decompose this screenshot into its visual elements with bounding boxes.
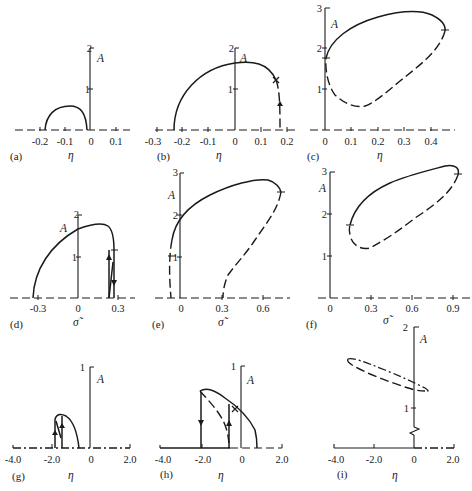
unstable-branch	[349, 175, 458, 248]
ytick: 1	[220, 361, 236, 372]
ytick: 1	[306, 84, 322, 95]
stable-branch	[172, 180, 281, 240]
panel-label: (e)	[152, 318, 164, 330]
panel-label: (h)	[160, 468, 173, 480]
y-axis-label: A	[331, 18, 338, 30]
arrow-up-icon	[226, 420, 232, 426]
panel-a	[15, 48, 130, 131]
unstable-branch	[326, 31, 445, 107]
arrow-up-icon	[106, 254, 112, 260]
x-axis-label: η	[216, 149, 222, 161]
y-axis-label: A	[97, 373, 104, 385]
xtick: 0.3	[397, 136, 410, 147]
xtick: 0.9	[446, 303, 459, 314]
panel-label: (c)	[307, 150, 319, 162]
panel-label: (g)	[12, 470, 25, 482]
xtick: 0	[239, 454, 244, 465]
y-axis-label: A	[240, 52, 247, 64]
xtick: 2.0	[275, 454, 288, 465]
axis-break-icon	[410, 427, 419, 435]
ytick: 3	[306, 3, 322, 14]
xtick: 0.2	[371, 136, 384, 147]
xtick: -0.1	[200, 136, 217, 147]
ytick: 1	[393, 403, 409, 414]
arrow-up-icon	[277, 101, 283, 106]
stable-branch	[350, 165, 458, 225]
xtick: -2.0	[44, 454, 61, 465]
ytick: 2	[392, 322, 408, 333]
ytick: 2	[311, 209, 327, 220]
xtick: 2.0	[446, 454, 459, 465]
ytick: 2	[218, 43, 234, 54]
ytick: 2	[306, 43, 322, 54]
xtick: -4.0	[328, 454, 345, 465]
y-axis-label: A	[60, 222, 67, 234]
ytick: 1	[311, 251, 327, 262]
cross-marker-icon	[232, 406, 238, 412]
ytick: 1	[217, 84, 233, 95]
stable-branch	[174, 62, 276, 130]
ytick: 3	[311, 166, 327, 177]
y-axis-label: A	[247, 374, 254, 386]
xtick: 2.0	[123, 454, 136, 465]
arrow-up-icon	[52, 430, 58, 435]
xtick: -0.3	[145, 136, 162, 147]
xtick: -2.0	[195, 454, 212, 465]
xtick: 0	[75, 303, 80, 314]
panel-label: (d)	[10, 318, 23, 330]
ytick: 1	[69, 362, 85, 373]
xtick: 0	[327, 303, 332, 314]
x-axis-label: η	[68, 149, 74, 161]
xtick: 0	[232, 136, 237, 147]
xtick: -0.2	[32, 136, 49, 147]
panel-label: (b)	[157, 150, 170, 162]
panel-label: (f)	[306, 318, 317, 330]
xtick: -2.0	[366, 454, 383, 465]
x-axis-label: σ̃	[218, 316, 224, 328]
y-axis-label: A	[97, 52, 104, 64]
panel-f	[318, 165, 470, 300]
xtick: 0.2	[280, 136, 293, 147]
x-axis-label: η	[392, 469, 398, 481]
xtick: 0.1	[344, 136, 357, 147]
unstable-branch	[223, 192, 281, 298]
x-axis-label: η	[68, 469, 74, 481]
ytick: 1	[162, 252, 178, 263]
xtick: 0.1	[254, 136, 267, 147]
x-axis-label: σ̃	[383, 314, 389, 326]
panel-e	[155, 173, 290, 300]
arrow-down-icon	[111, 280, 117, 286]
x-axis-label: η	[377, 149, 383, 161]
xtick: 0	[411, 454, 416, 465]
y-axis-label: A	[168, 189, 175, 201]
x-axis-label: η	[218, 469, 224, 481]
panel-label: (a)	[10, 150, 22, 162]
unstable-left-branch	[170, 240, 172, 298]
xtick: -0.2	[174, 136, 191, 147]
arrow-down-icon	[198, 420, 204, 426]
ytick: 2	[76, 43, 92, 54]
xtick: 0	[88, 136, 93, 147]
xtick: 0.3	[111, 303, 124, 314]
panel-i	[334, 327, 454, 448]
ytick: 2	[63, 209, 79, 220]
y-axis-label: A	[319, 182, 326, 194]
stable-branch	[45, 106, 87, 130]
xtick: -0.1	[57, 136, 74, 147]
ytick: 2	[162, 210, 178, 221]
stable-branch	[326, 12, 445, 58]
x-axis-label: σ̃	[73, 316, 79, 328]
xtick: 0.4	[424, 136, 437, 147]
lower-branch	[348, 359, 425, 391]
xtick: 0.6	[405, 303, 418, 314]
y-axis-label: A	[420, 333, 427, 345]
xtick: 0.3	[364, 303, 377, 314]
xtick: -0.3	[30, 303, 47, 314]
xtick: 0.6	[256, 303, 269, 314]
arrow-up-icon	[59, 423, 65, 428]
unstable-branch	[200, 391, 229, 448]
ytick: 1	[74, 84, 90, 95]
hopf-cross-icon	[273, 77, 279, 83]
xtick: 0.3	[215, 303, 228, 314]
figure-canvas: .ax { stroke:#1a1a1a; stroke-width:1.1; …	[0, 0, 472, 491]
